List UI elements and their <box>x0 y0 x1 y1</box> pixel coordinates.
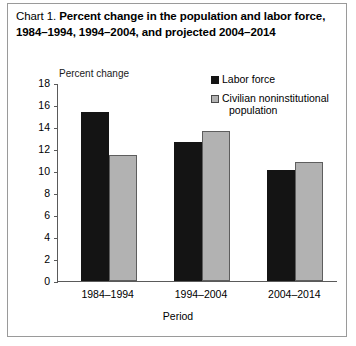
y-axis-tick-mark <box>54 282 58 283</box>
y-axis-tick-label: 0 <box>24 275 50 287</box>
chart-title-prefix: Chart 1. <box>16 10 59 22</box>
x-axis-tick-label: 1984–1994 <box>63 288 153 300</box>
y-axis-tick-label: 8 <box>24 187 50 199</box>
bar-labor-force <box>174 142 202 281</box>
y-axis-tick-label: 14 <box>24 121 50 133</box>
chart-figure: Chart 1. Percent change in the populatio… <box>7 3 347 337</box>
y-axis-tick-label: 16 <box>24 99 50 111</box>
bar-civilian-population <box>295 162 323 281</box>
bar-civilian-population <box>202 131 230 281</box>
legend-swatch-black-square-icon <box>211 76 219 84</box>
y-axis-tick-label: 2 <box>24 253 50 265</box>
y-axis-tick-label: 18 <box>24 77 50 89</box>
bar-labor-force <box>81 112 109 281</box>
bar-civilian-population <box>109 155 137 282</box>
bar-group <box>267 84 323 281</box>
bar-group <box>174 84 230 281</box>
x-axis-tick-label: 2004–2014 <box>249 288 339 300</box>
bar-groups <box>58 84 337 281</box>
y-axis-tick-label: 6 <box>24 209 50 221</box>
chart-title-main: Percent change in the population and lab… <box>16 10 325 38</box>
y-axis-label: Percent change <box>59 68 129 79</box>
x-axis-label: Period <box>8 310 347 322</box>
plot-area: 181614121086420 <box>57 84 337 282</box>
x-axis-tick-label: 1994–2004 <box>156 288 246 300</box>
chart-title: Chart 1. Percent change in the populatio… <box>16 9 336 40</box>
y-axis-tick-label: 12 <box>24 143 50 155</box>
y-axis-tick-label: 10 <box>24 165 50 177</box>
bar-labor-force <box>267 170 295 281</box>
bar-group <box>81 84 137 281</box>
y-axis-tick-label: 4 <box>24 231 50 243</box>
